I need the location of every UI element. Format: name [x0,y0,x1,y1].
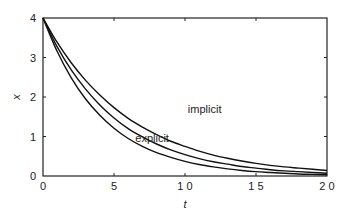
x-tick-label: 1 0 [177,180,192,192]
axis-labels: tximplicitexplicit [10,94,221,210]
y-tick-label: 1 [30,131,36,143]
series-line-explicit [43,18,327,175]
x-tick-label: 1 5 [248,180,263,192]
plot-frame [43,18,327,176]
x-tick-label: 0 [40,180,46,192]
y-tick-label: 4 [30,12,36,24]
chart: 051 01 52 001234 tximplicitexplicit [0,0,346,224]
y-tick-label: 0 [30,170,36,182]
y-axis-label: x [10,94,22,101]
series-lines [43,18,327,175]
annotation-explicit: explicit [135,132,169,144]
y-tick-label: 3 [30,52,36,64]
x-axis-label: t [183,198,187,210]
axis-ticks: 051 01 52 001234 [30,12,335,192]
series-line-exact [43,18,327,173]
x-tick-label: 5 [111,180,117,192]
y-tick-label: 2 [30,91,36,103]
annotation-implicit: implicit [188,103,222,115]
series-line-implicit [43,18,327,170]
x-tick-label: 2 0 [319,180,334,192]
